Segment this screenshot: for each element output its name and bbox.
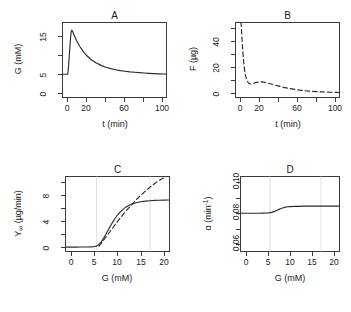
panel-d-xticklabel-5: 5 xyxy=(258,257,278,267)
panel-d-xtick-15 xyxy=(312,252,313,256)
panel-d-xticklabel-10: 10 xyxy=(280,257,300,267)
panel-d-yaxis-label: α (min-1) xyxy=(202,174,213,254)
panel-d-xtick-10 xyxy=(290,252,291,256)
panel-d-xticklabel-20: 20 xyxy=(324,257,344,267)
panel-d-yticklabel-008: 0.08 xyxy=(231,194,241,230)
panel-d-yticklabel-010: 0.10 xyxy=(231,163,241,199)
panel-d-xtick-0 xyxy=(246,252,247,256)
panel-d-xticklabel-0: 0 xyxy=(236,257,256,267)
panel-d-xtick-20 xyxy=(334,252,335,256)
figure-canvas: A 0 5 15 0 20 60 100 t (min) G (mM) B xyxy=(0,0,351,312)
panel-d-xtick-5 xyxy=(268,252,269,256)
panel-d-yticklabel-006: 0.06 xyxy=(231,225,241,261)
panel-d-xticklabel-15: 15 xyxy=(302,257,322,267)
panel-d-xaxis-label: G (mM) xyxy=(240,273,340,283)
panel-d-yaxis-label-text: α (min-1) xyxy=(203,197,213,231)
